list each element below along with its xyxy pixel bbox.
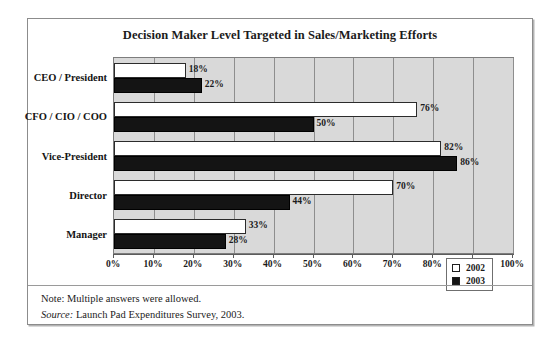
- x-tick-60%: [352, 254, 353, 258]
- bar-value-label: 86%: [460, 158, 479, 168]
- bar-band: 18%22%: [114, 58, 513, 97]
- x-tick-100%: [512, 254, 513, 258]
- y-axis-label-cfo: CFO / CIO / COO: [28, 97, 112, 136]
- bar-2002[interactable]: [114, 102, 417, 117]
- x-tick-label-20%: 20%: [183, 259, 202, 269]
- bar-2002[interactable]: [114, 219, 246, 234]
- bar-2003[interactable]: [114, 117, 314, 132]
- x-tick-10%: [153, 254, 154, 258]
- x-tick-label-40%: 40%: [263, 259, 282, 269]
- x-tick-50%: [313, 254, 314, 258]
- bar-2003[interactable]: [114, 195, 290, 210]
- bar-row: 82%: [114, 141, 513, 156]
- footnote-source: Source: Launch Pad Expenditures Survey, …: [41, 307, 521, 323]
- bar-row: 44%: [114, 195, 513, 210]
- x-tick-label-70%: 70%: [383, 259, 402, 269]
- bar-row: 18%: [114, 63, 513, 78]
- y-axis-label-vice-president: Vice-President: [28, 136, 112, 175]
- bar-value-label: 18%: [189, 65, 208, 75]
- y-axis-category-labels: CEO / President CFO / CIO / COO Vice-Pre…: [28, 58, 112, 254]
- bar-row: 76%: [114, 102, 513, 117]
- y-axis-label-ceo: CEO / President: [28, 58, 112, 97]
- x-tick-label-30%: 30%: [223, 259, 242, 269]
- chart-legend: 2002 2003: [446, 258, 493, 291]
- x-tick-0%: [113, 254, 114, 258]
- bar-2002[interactable]: [114, 141, 441, 156]
- x-tick-80%: [432, 254, 433, 258]
- x-tick-70%: [392, 254, 393, 258]
- y-axis-label-director: Director: [28, 176, 112, 215]
- x-tick-40%: [273, 254, 274, 258]
- x-tick-label-50%: 50%: [303, 259, 322, 269]
- bar-row: 86%: [114, 156, 513, 171]
- bar-2003[interactable]: [114, 234, 226, 249]
- y-axis-label-manager: Manager: [28, 215, 112, 254]
- bar-band: 82%86%: [114, 136, 513, 175]
- bar-value-label: 44%: [293, 197, 312, 207]
- bar-row: 22%: [114, 78, 513, 93]
- bar-value-label: 82%: [444, 143, 463, 153]
- bar-band: 33%28%: [114, 214, 513, 253]
- bar-value-label: 22%: [205, 80, 224, 90]
- bar-band: 70%44%: [114, 175, 513, 214]
- bar-band: 76%50%: [114, 97, 513, 136]
- plot-region: CEO / President CFO / CIO / COO Vice-Pre…: [28, 57, 532, 275]
- x-axis-line: [113, 254, 514, 255]
- bar-2003[interactable]: [114, 156, 457, 171]
- bar-row: 28%: [114, 234, 513, 249]
- bar-row: 50%: [114, 117, 513, 132]
- gridline-100%: [513, 58, 514, 253]
- footnote-source-text: Launch Pad Expenditures Survey, 2003.: [73, 309, 244, 320]
- bar-value-label: 76%: [420, 104, 439, 114]
- footnotes: Note: Multiple answers were allowed. Sou…: [41, 291, 521, 324]
- plot-area: 18%22%76%50%82%86%70%44%33%28%: [113, 57, 514, 254]
- bar-value-label: 28%: [229, 236, 248, 246]
- footnote-note: Note: Multiple answers were allowed.: [41, 291, 521, 307]
- x-tick-label-0%: 0%: [106, 259, 120, 269]
- black-square-icon: [452, 277, 460, 285]
- footnote-divider: [28, 285, 532, 286]
- x-tick-label-10%: 10%: [143, 259, 162, 269]
- bar-value-label: 70%: [396, 182, 415, 192]
- legend-label-2002: 2002: [466, 263, 485, 273]
- bar-row: 70%: [114, 180, 513, 195]
- white-square-icon: [452, 264, 460, 272]
- bar-value-label: 33%: [249, 221, 268, 231]
- bar-2003[interactable]: [114, 78, 202, 93]
- legend-entry-2002: 2002: [452, 263, 485, 273]
- bar-2002[interactable]: [114, 63, 186, 78]
- chart-title: Decision Maker Level Targeted in Sales/M…: [28, 28, 532, 43]
- x-tick-label-60%: 60%: [343, 259, 362, 269]
- bar-value-label: 50%: [317, 119, 336, 129]
- figure-frame: Decision Maker Level Targeted in Sales/M…: [27, 18, 533, 325]
- bars-layer: 18%22%76%50%82%86%70%44%33%28%: [114, 58, 513, 253]
- x-tick-20%: [193, 254, 194, 258]
- bar-2002[interactable]: [114, 180, 393, 195]
- x-tick-label-80%: 80%: [423, 259, 442, 269]
- bar-row: 33%: [114, 219, 513, 234]
- x-tick-30%: [233, 254, 234, 258]
- footnote-source-label: Source:: [41, 309, 73, 320]
- x-tick-label-100%: 100%: [500, 259, 524, 269]
